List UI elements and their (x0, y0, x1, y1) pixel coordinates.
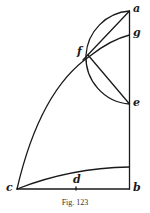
figure-caption: Fig. 123 (0, 198, 150, 207)
label-f: f (77, 46, 82, 57)
label-g: g (133, 27, 141, 38)
label-e: e (133, 97, 140, 108)
label-a: a (133, 3, 140, 14)
semicircle-ae (86, 11, 130, 104)
label-b: b (133, 182, 141, 193)
label-d: d (73, 174, 81, 185)
label-c: c (6, 182, 13, 193)
arc-cg (17, 35, 130, 189)
geometric-figure: a g f e c d b Fig. 123 (0, 0, 150, 213)
line-fe (88, 55, 130, 104)
